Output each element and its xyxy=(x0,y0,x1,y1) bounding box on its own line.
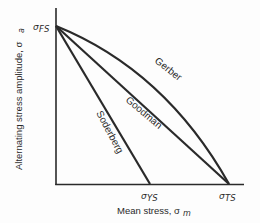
svg-text:a: a xyxy=(17,28,26,33)
goodman-label: Goodman xyxy=(124,94,165,131)
fatigue-diagram: Gerber Goodman Soderberg σ FS σ YS σ TS … xyxy=(0,0,260,223)
svg-text:m: m xyxy=(183,209,191,218)
diagram-svg: Gerber Goodman Soderberg σ FS σ YS σ TS … xyxy=(0,0,260,223)
fs-point-label: σ FS xyxy=(33,22,50,34)
ys-point-label: σ YS xyxy=(141,191,158,203)
svg-text:FS: FS xyxy=(39,24,50,34)
ts-point-label: σ TS xyxy=(219,191,236,203)
x-axis-label: Mean stress, σ m xyxy=(117,205,191,218)
svg-text:Mean stress, σ: Mean stress, σ xyxy=(117,205,180,216)
svg-text:YS: YS xyxy=(147,193,158,203)
y-axis-label: Alternating stress amplitude, σ a xyxy=(13,28,26,170)
gerber-label: Gerber xyxy=(153,55,185,83)
svg-text:Alternating stress amplitude,: Alternating stress amplitude, σ xyxy=(13,41,24,170)
svg-text:TS: TS xyxy=(225,193,236,203)
